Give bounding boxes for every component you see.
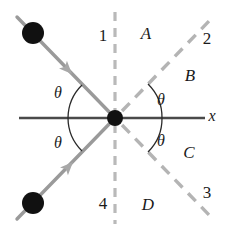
theta-upper-left-arc xyxy=(68,85,82,118)
theta-lower-right-label: θ xyxy=(157,133,165,149)
quadrant-label-3: 3 xyxy=(203,184,212,201)
particle-dot-upper-left xyxy=(22,22,44,44)
theta-upper-left-label: θ xyxy=(54,85,62,101)
region-label-c: C xyxy=(183,144,194,161)
diagram-canvas xyxy=(0,0,228,235)
quadrant-label-4: 4 xyxy=(99,195,108,212)
ray-diagram-figure: x 1 2 3 4 A B C D θ θ θ θ xyxy=(0,0,228,235)
quadrant-label-1: 1 xyxy=(99,27,108,44)
theta-upper-right-label: θ xyxy=(157,92,165,108)
quadrant-label-2: 2 xyxy=(203,30,212,47)
theta-lower-left-arc xyxy=(68,118,82,151)
region-label-d: D xyxy=(142,196,154,213)
dashed-ray-upper-right-line xyxy=(122,17,213,111)
region-label-a: A xyxy=(141,25,151,42)
dashed-ray-lower-right-line xyxy=(122,125,213,219)
region-label-b: B xyxy=(185,67,195,84)
origin-dot xyxy=(107,110,123,126)
theta-lower-left-label: θ xyxy=(54,135,62,151)
particle-dot-lower-left xyxy=(22,192,44,214)
x-axis-label: x xyxy=(208,108,215,124)
